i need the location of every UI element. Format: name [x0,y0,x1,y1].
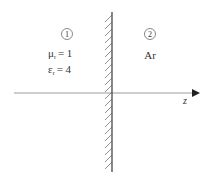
mu-subscript: r [54,54,56,60]
region2-marker-number: 2 [148,30,152,39]
mu-value: = 1 [58,47,72,59]
wall-hatching [105,15,112,169]
eps-value: = 4 [57,63,72,75]
diagram-canvas: z 1 μr= 1 εr= 4 2 Ar [0,0,208,180]
z-axis-label: z [182,95,187,106]
z-axis-arrowhead [192,89,200,97]
eps-r-label: εr= 4 [48,63,72,76]
eps-subscript: r [53,70,55,76]
region2-label: Ar [144,49,156,61]
mu-r-label: μr= 1 [48,47,72,60]
region1-marker-number: 1 [65,30,69,39]
